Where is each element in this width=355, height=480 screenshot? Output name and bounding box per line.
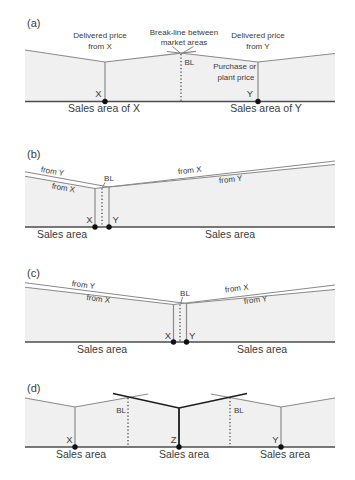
panel-a-sales-region-fill [25,50,335,102]
panel-d-sales-area-center-label: Sales area [159,448,209,460]
panel-c-bl-label: BL [180,289,190,298]
panel-d-bl-right-label: BL [234,406,244,415]
panel-a-plant-x-label: X [95,88,102,99]
panel-a: (a) Delivered price from X Break-line be… [25,17,335,114]
panel-c-plant-x-dot [171,339,176,344]
panel-c-right-upper-label: from X [224,283,249,295]
panel-d: (d) BL BL X Z Y Sales area Sales area Sa… [25,382,335,461]
panel-d-sales-area-right-label: Sales area [260,448,310,460]
panel-c-bl-leader [181,297,183,303]
panel-a-delivered-from-y-line1: Delivered price [231,31,285,40]
panel-b: (b) from Y from X from X from Y BL X Y S… [25,148,335,240]
panel-d-plant-x-label: X [66,434,73,445]
panel-d-plant-y-label: Y [272,434,279,445]
panel-d-plant-z-label: Z [171,434,177,445]
panel-c-tag: (c) [27,267,40,279]
panel-b-left-upper-label: from Y [40,165,65,178]
panel-c: (c) from Y from X from X from Y BL X Y S… [25,267,335,355]
market-area-figure: (a) Delivered price from X Break-line be… [0,0,355,480]
panel-d-sales-area-left-label: Sales area [56,448,106,460]
panel-b-plant-y-label: Y [113,214,120,225]
panel-c-plant-x-label: X [165,330,172,341]
panel-a-tag: (a) [27,17,40,29]
panel-a-purchase-price-line1: Purchase or [213,62,256,71]
panel-b-plant-x-label: X [86,214,93,225]
panel-a-sales-area-y-label: Sales area of Y [230,102,302,114]
panel-a-bl-label: BL [185,58,195,67]
panel-a-delivered-from-x-line1: Delivered price [73,31,127,40]
figure-canvas: (a) Delivered price from X Break-line be… [0,0,355,480]
panel-c-sales-area-right-label: Sales area [237,343,287,355]
panel-d-tag: (d) [27,382,40,394]
panel-d-bl-left-label: BL [116,406,126,415]
panel-b-sales-area-left-label: Sales area [37,228,87,240]
panel-a-delivered-from-y-line2: from Y [246,42,270,51]
panel-a-delivered-from-x-line2: from X [88,42,112,51]
panel-b-sales-area-right-label: Sales area [205,228,255,240]
panel-b-plant-x-dot [92,224,97,229]
panel-a-breakline-note-line2: market areas [161,38,208,47]
panel-a-sales-area-x-label: Sales area of X [68,102,140,114]
panel-a-breakline-note-line1: Break-line between [150,28,218,37]
panel-a-plant-y-label: Y [247,88,254,99]
panel-b-plant-y-dot [106,224,111,229]
panel-c-plant-y-label: Y [189,330,196,341]
panel-b-right-upper-label: from X [178,165,203,177]
panel-b-tag: (b) [27,148,40,160]
panel-b-bl-label: BL [104,174,114,183]
panel-a-purchase-price-line2: plant price [218,73,255,82]
panel-c-sales-area-left-label: Sales area [77,343,127,355]
